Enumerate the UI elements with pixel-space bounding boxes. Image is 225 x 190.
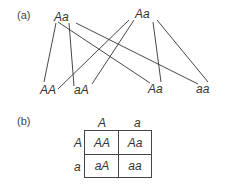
line-parent1-AA [44,23,56,82]
line-parent2-Aa [153,22,161,82]
column-header-a: a [134,117,141,129]
offspring-aA: aA [74,84,89,96]
parent-left-genotype: Aa [54,11,69,23]
panel-b-label: (b) [17,115,30,127]
cell-Aa: Aa [118,131,152,155]
line-parent1-Aa [58,22,150,83]
row-header-a: a [74,161,81,173]
cross-lines [0,0,225,100]
parent-right-genotype: Aa [135,8,150,20]
column-header-A: A [98,117,106,129]
offspring-aa: aa [196,83,209,95]
row-header-A: A [74,137,82,149]
line-parent2-AA [58,20,129,89]
cell-aA: aA [85,154,119,178]
punnett-square: AA Aa aA aa [84,130,152,178]
line-parent2-aa [157,20,208,82]
offspring-Aa: Aa [148,83,163,95]
cell-aa: aa [118,154,152,178]
line-parent2-aA [92,20,134,84]
cell-AA: AA [85,131,119,155]
offspring-AA: AA [40,84,56,96]
